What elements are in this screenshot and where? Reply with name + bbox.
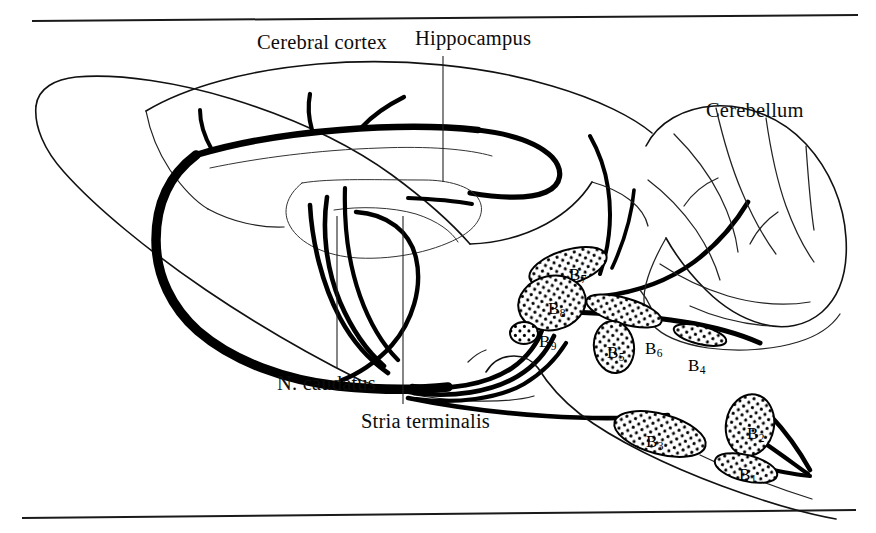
corpus-callosum-tract <box>156 155 448 389</box>
cingulum-branch-rostral-tip <box>200 110 212 150</box>
nucleus-label-b9: B9 <box>539 333 556 350</box>
midbrain-outline <box>470 182 592 244</box>
nucleus-label-base: B <box>607 343 618 362</box>
brain-diagram-svg <box>0 0 876 533</box>
fornix-loop <box>342 212 418 380</box>
nucleus-label-subscript: 6 <box>657 347 663 359</box>
nucleus-label-base: B <box>569 265 580 284</box>
bottom-rule <box>22 510 856 518</box>
cingulum-branch-caudal <box>362 97 404 127</box>
cerebellar-fissure-9 <box>750 212 778 244</box>
nucleus-label-b4: B4 <box>688 357 705 374</box>
nucleus-label-subscript: 3 <box>658 440 664 452</box>
olfactory-bulb-outline <box>36 106 360 380</box>
nucleus-label-subscript: 2 <box>759 432 765 444</box>
label-cerebellum: Cerebellum <box>706 100 804 121</box>
label-stria-terminalis: Stria terminalis <box>361 411 490 432</box>
nucleus-label-b7: B7 <box>569 266 586 283</box>
cerebellar-fissure-5 <box>806 146 814 230</box>
nucleus-label-b5: B5 <box>607 344 624 361</box>
nucleus-label-base: B <box>539 332 550 351</box>
nucleus-label-subscript: 5 <box>619 351 625 363</box>
nucleus-label-b6: B6 <box>645 340 662 357</box>
cerebellar-fissure-3 <box>766 118 814 262</box>
lateral-ventricle-roof <box>210 147 492 168</box>
nucleus-label-subscript: 7 <box>581 273 587 285</box>
ventral-forebrain-outline <box>208 209 284 227</box>
nucleus-label-subscript: 4 <box>700 364 706 376</box>
nucleus-label-base: B <box>747 424 758 443</box>
nucleus-label-b2: B2 <box>747 425 764 442</box>
cingulum-branch-rostral <box>309 94 312 130</box>
tectum-outline <box>592 182 648 226</box>
nucleus-label-b3: B3 <box>646 433 663 450</box>
rhinal-fissure <box>146 111 208 209</box>
stria-terminalis-fiber-2 <box>310 205 388 373</box>
cerebellar-afferent-tract-1 <box>604 202 748 296</box>
top-rule <box>32 15 858 21</box>
fimbria-tract <box>408 198 472 204</box>
brainstem-dorsal-outline <box>468 350 486 362</box>
nucleus-label-b8: B8 <box>548 300 565 317</box>
label-n-caudatus: N. caudatus <box>277 373 376 394</box>
callosum-splenium <box>470 130 560 197</box>
cerebellar-fissure-1 <box>674 134 738 252</box>
nucleus-label-subscript: 9 <box>551 340 557 352</box>
cerebellum-ventral-outline <box>644 238 840 350</box>
nucleus-label-subscript: 8 <box>560 307 566 319</box>
nucleus-label-base: B <box>645 339 656 358</box>
cerebellar-afferent-tract-3 <box>612 190 634 268</box>
nucleus-label-base: B <box>688 356 699 375</box>
nucleus-label-base: B <box>739 465 750 484</box>
figure-root: Cerebral cortex Hippocampus Cerebellum N… <box>0 0 876 533</box>
label-hippocampus: Hippocampus <box>415 28 531 49</box>
nucleus-label-base: B <box>646 432 657 451</box>
label-cerebral-cortex: Cerebral cortex <box>257 32 387 53</box>
nucleus-label-subscript: 1 <box>751 473 757 485</box>
nucleus-label-b1: B1 <box>739 466 756 483</box>
cerebellum-outline <box>646 106 846 327</box>
nucleus-label-base: B <box>548 299 559 318</box>
nucleus-b9 <box>510 322 538 344</box>
